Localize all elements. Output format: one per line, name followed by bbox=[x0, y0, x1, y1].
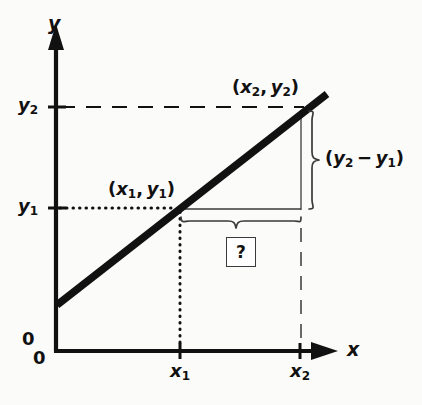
point-label-p1-close: ) bbox=[167, 178, 175, 199]
main-line bbox=[57, 94, 327, 305]
point-label-p1-y-sub: 1 bbox=[158, 187, 166, 201]
origin-label-y: 0 bbox=[22, 330, 35, 348]
run-question-text: ? bbox=[236, 242, 246, 262]
point-label-p2-open: ( bbox=[232, 76, 240, 97]
run-question-box: ? bbox=[226, 237, 256, 267]
y-tick-label-y1: y1 bbox=[18, 197, 38, 215]
rise-brace bbox=[309, 111, 319, 209]
x-axis-label: x bbox=[347, 340, 359, 359]
x-tick-label-x2-sub: 2 bbox=[302, 369, 310, 383]
point-label-p1-x-sub: 1 bbox=[128, 187, 136, 201]
rise-first-sub: 2 bbox=[345, 156, 353, 170]
x-tick-label-x1: x1 bbox=[170, 362, 190, 380]
point-label-p1-comma: , bbox=[136, 178, 143, 199]
point-label-p2-y-base: y bbox=[271, 76, 283, 97]
point-label-p2-x-sub: 2 bbox=[252, 85, 260, 99]
rise-close-paren: ) bbox=[396, 147, 404, 168]
point-label-p1-x-base: x bbox=[116, 178, 128, 199]
x-tick-label-x1-sub: 1 bbox=[182, 369, 190, 383]
point-label-p1: (x1, y1) bbox=[108, 180, 175, 198]
point-label-p1-y-base: y bbox=[147, 178, 159, 199]
rise-second-sub: 1 bbox=[387, 156, 395, 170]
y-tick-label-y1-sub: 1 bbox=[30, 204, 38, 218]
x-tick-label-x2-base: x bbox=[290, 360, 302, 381]
slope-diagram-figure: y x 0 0 y2 y1 x1 x2 (x1, y1) (x2, y2) (y… bbox=[0, 0, 422, 405]
point-label-p2-x-base: x bbox=[240, 76, 252, 97]
y-tick-label-y1-base: y bbox=[18, 195, 30, 216]
point-label-p1-open: ( bbox=[108, 178, 116, 199]
point-label-p2-close: ) bbox=[291, 76, 299, 97]
x-tick-label-x2: x2 bbox=[290, 362, 310, 380]
x-axis-arrowhead bbox=[311, 342, 338, 360]
point-label-p2-y-sub: 2 bbox=[282, 85, 290, 99]
origin-label-x: 0 bbox=[33, 349, 46, 367]
x-tick-label-x1-base: x bbox=[170, 360, 182, 381]
y-tick-label-y2-sub: 2 bbox=[30, 103, 38, 117]
rise-second-base: y bbox=[376, 147, 388, 168]
rise-annotation-label: (y2 − y1) bbox=[325, 149, 404, 167]
point-label-p2-comma: , bbox=[260, 76, 267, 97]
y-tick-label-y2-base: y bbox=[18, 94, 30, 115]
y-tick-label-y2: y2 bbox=[18, 96, 38, 114]
y-axis-label: y bbox=[48, 14, 60, 33]
rise-operator: − bbox=[357, 147, 372, 168]
point-label-p2: (x2, y2) bbox=[232, 78, 299, 96]
rise-first-base: y bbox=[333, 147, 345, 168]
rise-open-paren: ( bbox=[325, 147, 333, 168]
run-brace bbox=[181, 217, 301, 228]
